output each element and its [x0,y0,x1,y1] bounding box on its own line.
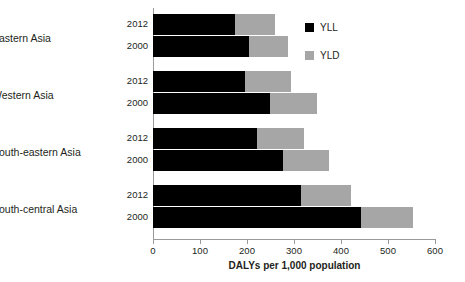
bar-segment-yll [153,207,361,228]
bar-row [153,128,304,149]
category-label-western-asia: Western Asia [0,89,116,101]
bar-row [153,14,275,35]
year-label-south-eastern-2012: 2012 [118,132,148,143]
bar-segment-yld [249,36,288,57]
bar-row [153,93,317,114]
year-label-south-central-2012: 2012 [118,189,148,200]
bar-segment-yld [283,150,329,171]
x-axis-title: DALYs per 1,000 population [153,260,436,271]
bar-segment-yld [235,14,275,35]
x-axis-tick-label: 300 [274,245,314,256]
category-label-text: Eastern Asia [0,32,116,44]
bar-row [153,207,413,228]
bar-segment-yll [153,71,245,92]
x-axis-tick-label: 0 [133,245,173,256]
bar-segment-yll [153,150,283,171]
category-label-text: Western Asia [0,89,116,101]
category-label-eastern-asia: Eastern Asia [0,32,116,44]
x-axis-tick-label: 500 [368,245,408,256]
bar-segment-yll [153,14,235,35]
x-axis-tick-label: 400 [321,245,361,256]
category-label-text: South-eastern Asia [0,146,116,158]
bar-segment-yld [361,207,413,228]
bar-row [153,71,291,92]
legend-item-yll: YLL [305,22,339,33]
bar-segment-yld [301,185,351,206]
x-axis-tick [247,240,248,244]
year-label-south-central-2000: 2000 [118,211,148,222]
bar-row [153,150,329,171]
year-label-western-2012: 2012 [118,75,148,86]
category-label-text: South-central Asia [0,203,116,215]
legend-swatch-yll-icon [305,23,314,32]
legend-label-yld: YLD [320,50,339,61]
bar-segment-yld [257,128,304,149]
x-axis-tick [341,240,342,244]
category-label-south-central-asia: South-central Asia [0,203,116,215]
bar-segment-yld [245,71,291,92]
x-axis-tick [294,240,295,244]
legend-label-yll: YLL [320,22,338,33]
chart-canvas: Eastern Asia Western Asia South-eastern … [0,0,465,282]
x-axis-tick-label: 600 [415,245,455,256]
legend-swatch-yld-icon [305,51,314,60]
legend-item-yld: YLD [305,50,339,61]
bar-segment-yll [153,93,270,114]
x-axis-tick [435,240,436,244]
year-label-western-2000: 2000 [118,97,148,108]
plot-area [153,8,435,240]
x-axis-tick [153,240,154,244]
bar-segment-yll [153,36,249,57]
bar-segment-yll [153,128,257,149]
year-label-eastern-2000: 2000 [118,40,148,51]
legend: YLL YLD [305,22,339,78]
bar-segment-yll [153,185,301,206]
category-label-south-eastern-asia: South-eastern Asia [0,146,116,158]
bar-segment-yld [270,93,317,114]
year-label-eastern-2012: 2012 [118,18,148,29]
x-axis-tick [200,240,201,244]
x-axis-tick-label: 100 [180,245,220,256]
bar-row [153,36,288,57]
x-axis-tick-label: 200 [227,245,267,256]
x-axis-tick [388,240,389,244]
bar-row [153,185,351,206]
year-label-south-eastern-2000: 2000 [118,154,148,165]
